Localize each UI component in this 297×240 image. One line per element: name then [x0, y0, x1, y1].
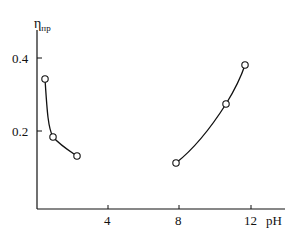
x-tick-label-4: 4	[104, 213, 111, 228]
x-tick-label-12: 12	[244, 213, 257, 228]
data-point	[173, 160, 179, 166]
data-point	[74, 153, 80, 159]
y-tick-label-0.2: 0.2	[12, 124, 28, 139]
data-point	[42, 76, 48, 82]
series-alkaline-curve	[176, 65, 245, 163]
y-tick-label-0.4: 0.4	[12, 51, 29, 66]
x-tick-label-8: 8	[175, 213, 182, 228]
data-point	[223, 101, 229, 107]
series-acidic-curve	[45, 79, 77, 156]
x-axis-label: pH	[266, 213, 282, 228]
chart-canvas: 0.4 0.2 4 8 12 pH	[0, 0, 297, 240]
data-point	[242, 62, 248, 68]
data-point	[50, 134, 56, 140]
